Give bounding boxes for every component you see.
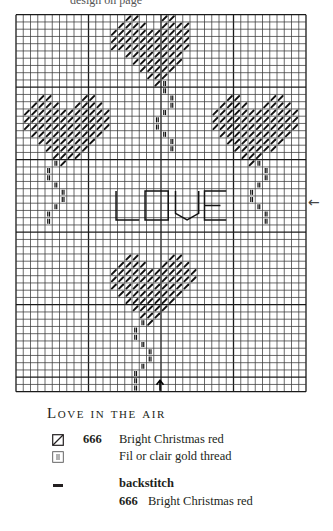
cross-stitch-red [170,24,174,28]
cross-stitch-chart [0,0,333,400]
cross-stitch-red [83,147,87,151]
cross-stitch-red [177,270,181,274]
cross-stitch-red [76,111,80,115]
cross-stitch-red [155,38,159,42]
cross-stitch-red [141,31,145,35]
cross-stitch-red [97,132,101,136]
cross-stitch-red [141,314,145,318]
cross-stitch-red [39,125,43,129]
cross-stitch-red [126,270,130,274]
cross-stitch-red [141,292,145,296]
cross-stitch-red [97,111,101,115]
cross-stitch-red [76,154,80,158]
cross-stitch-red [155,53,159,57]
backstitch-dash-icon [53,484,63,487]
cross-stitch-red [293,125,297,129]
cross-stitch-red [163,263,167,267]
cross-stitch-red [126,24,130,28]
cross-stitch-red [148,45,152,49]
cross-stitch-red [177,53,181,57]
cross-stitch-red [228,111,232,115]
cross-stitch-red [271,125,275,129]
legend-name: Bright Christmas red [119,432,224,447]
cross-stitch-red [155,31,159,35]
cross-stitch-red [242,111,246,115]
cross-stitch-red [170,45,174,49]
cross-stitch-red [112,31,116,35]
cross-stitch-red [271,103,275,107]
cross-stitch-red [170,53,174,57]
cross-stitch-red [39,118,43,122]
cross-stitch-red [228,118,232,122]
cross-stitch-red [90,111,94,115]
cross-stitch-red [155,285,159,289]
cross-stitch-red [126,31,130,35]
cross-stitch-red [134,299,138,303]
cross-stitch-red [170,38,174,42]
cross-stitch-red [119,24,123,28]
cross-stitch-red [141,299,145,303]
cross-stitch-red [119,31,123,35]
cross-stitch-red [126,256,130,260]
cross-stitch-red [163,16,167,20]
cross-stitch-red [141,38,145,42]
cross-stitch-red [119,292,123,296]
cross-stitch-red [235,118,239,122]
cross-stitch-red [32,103,36,107]
cross-stitch-red [148,38,152,42]
cross-stitch-red [32,118,36,122]
cross-stitch-red [257,154,261,158]
cross-stitch-red [112,45,116,49]
cross-stitch-red [134,306,138,310]
cross-stitch-red [242,154,246,158]
cross-stitch-red [286,103,290,107]
cross-stitch-red [90,132,94,136]
cross-stitch-red [134,24,138,28]
cross-stitch-red [54,154,58,158]
cross-stitch-red [141,67,145,71]
cross-stitch-red [155,299,159,303]
cross-stitch-red [76,140,80,144]
cross-stitch-red [264,147,268,151]
cross-stitch-red [47,147,51,151]
cross-stitch-red [61,161,65,165]
cross-stitch-red [148,321,152,325]
chart-title: Love in the air [47,405,166,422]
cross-stitch-red [155,67,159,71]
cross-stitch-red [184,285,188,289]
cross-stitch-red [184,277,188,281]
cross-stitch-red [105,111,109,115]
cross-stitch-red [25,111,29,115]
cross-stitch-red [126,38,130,42]
cross-stitch-red [242,103,246,107]
cross-stitch-red [61,111,65,115]
cross-stitch-red [90,118,94,122]
cross-stitch-red [235,125,239,129]
cross-stitch-red [76,147,80,151]
cross-stitch-red [177,38,181,42]
cross-stitch-red [134,270,138,274]
legend-name: Bright Christmas red [148,494,253,509]
cross-stitch-red [213,125,217,129]
cross-stitch-red [228,96,232,100]
cross-stitch-red [61,118,65,122]
cross-stitch-red [54,140,58,144]
cross-stitch-red [83,111,87,115]
cross-stitch-red [68,154,72,158]
cross-stitch-red [47,125,51,129]
cross-stitch-red [112,270,116,274]
cross-stitch-red [170,277,174,281]
center-column-arrow-icon [157,380,164,391]
cross-stitch-red [163,285,167,289]
cross-stitch-red [163,45,167,49]
cross-stitch-red [148,31,152,35]
cross-stitch-red [163,38,167,42]
cross-stitch-red [155,314,159,318]
cross-stitch-red [119,277,123,281]
cross-stitch-red [184,38,188,42]
cross-stitch-red [119,38,123,42]
gold-thread-icon [52,451,64,463]
cross-stitch-red [177,263,181,267]
legend: 666 Bright Christmas red Fil or clair go… [52,432,322,512]
cross-stitch-red [83,132,87,136]
